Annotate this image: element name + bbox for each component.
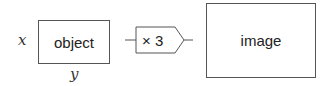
object-image-diagram: x object y × 3 image bbox=[0, 0, 333, 86]
multiplier-label: × 3 bbox=[142, 33, 163, 48]
object-label: object bbox=[54, 34, 94, 51]
output-variable-y: y bbox=[70, 67, 78, 82]
object-box: object bbox=[38, 20, 110, 64]
image-box: image bbox=[206, 3, 316, 78]
image-label: image bbox=[241, 32, 282, 49]
input-variable-x: x bbox=[18, 33, 26, 48]
